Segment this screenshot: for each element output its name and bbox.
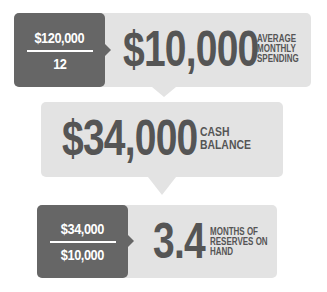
spending-result: $10,000 (123, 20, 259, 78)
arrow-right-icon (105, 44, 111, 56)
reserves-result: 3.4 (153, 212, 205, 270)
cash-balance-caption: CASH BALANCE (200, 125, 251, 151)
fraction-bar (50, 241, 116, 243)
reserves-caption: MONTHS OF RESERVES ON HAND (210, 227, 268, 257)
caption-line: SPENDING (257, 54, 299, 64)
fraction-bar (27, 50, 93, 52)
caption-line: BALANCE (200, 138, 251, 151)
spending-caption: AVERAGE MONTHLY SPENDING (257, 34, 299, 64)
reserves-numerator: $34,000 (61, 220, 104, 237)
spending-fraction-box: $120,000 12 (14, 13, 105, 87)
spending-numerator: $120,000 (35, 29, 85, 46)
spending-denominator: 12 (53, 55, 66, 72)
reserves-denominator: $10,000 (61, 246, 104, 263)
reserves-fraction-box: $34,000 $10,000 (37, 205, 128, 278)
cash-balance-result: $34,000 (62, 109, 198, 167)
arrow-down-icon (148, 177, 176, 195)
arrow-down-icon (152, 87, 176, 97)
caption-line: HAND (210, 247, 268, 257)
arrow-right-icon (128, 235, 134, 247)
